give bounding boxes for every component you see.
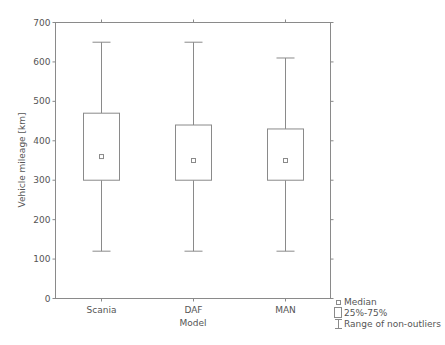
box-plot-chart: 0100200300400500600700 ScaniaDAFMAN Vehi… bbox=[0, 0, 445, 345]
box-scania bbox=[84, 42, 120, 251]
legend-item-box: 25%-75% bbox=[335, 308, 388, 319]
box-daf bbox=[176, 42, 212, 251]
box-man bbox=[268, 58, 304, 251]
y-tick-label: 300 bbox=[33, 175, 50, 185]
legend-label-median: Median bbox=[344, 297, 377, 307]
median-marker-icon bbox=[337, 301, 341, 305]
median-marker bbox=[284, 159, 288, 163]
x-category-label: DAF bbox=[184, 305, 202, 315]
legend: Median 25%-75% Range of non-outliers bbox=[335, 297, 442, 329]
legend-item-whisker: Range of non-outliers bbox=[335, 319, 441, 329]
legend-label-whisker: Range of non-outliers bbox=[344, 319, 441, 329]
legend-label-box: 25%-75% bbox=[344, 308, 388, 318]
whisker-range-icon bbox=[335, 320, 342, 329]
box-range-icon bbox=[335, 308, 342, 318]
x-axis-title: Model bbox=[179, 318, 206, 328]
median-marker bbox=[100, 155, 104, 159]
x-category-label: MAN bbox=[275, 305, 296, 315]
y-tick-label: 400 bbox=[33, 136, 50, 146]
y-tick-label: 0 bbox=[45, 294, 51, 304]
iqr-box bbox=[176, 125, 212, 180]
median-marker bbox=[192, 159, 196, 163]
y-tick-label: 100 bbox=[33, 254, 50, 264]
iqr-box bbox=[84, 113, 120, 180]
y-tick-label: 200 bbox=[33, 215, 50, 225]
y-tick-label: 500 bbox=[33, 96, 50, 106]
y-tick-label: 600 bbox=[33, 57, 50, 67]
y-tick-label: 700 bbox=[33, 18, 50, 28]
y-axis-title: Vehicle mileage [km] bbox=[17, 113, 27, 208]
plot-area bbox=[56, 23, 331, 299]
x-category-label: Scania bbox=[87, 305, 117, 315]
iqr-box bbox=[268, 129, 304, 180]
legend-item-median: Median bbox=[337, 297, 377, 307]
